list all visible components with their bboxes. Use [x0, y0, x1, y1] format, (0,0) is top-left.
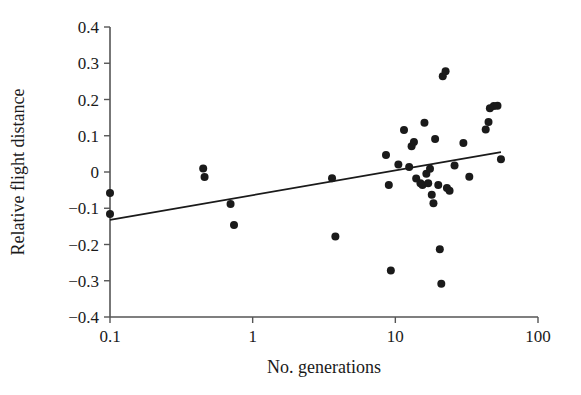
x-tick-label: 10 — [387, 327, 404, 346]
data-point — [201, 173, 209, 181]
data-point — [106, 210, 114, 218]
data-point — [493, 102, 501, 110]
data-point — [394, 160, 402, 168]
data-point — [424, 179, 432, 187]
data-point — [465, 173, 473, 181]
data-point — [459, 139, 467, 147]
data-point — [436, 245, 444, 253]
data-point — [106, 189, 114, 197]
y-tick-label: −0.4 — [68, 308, 99, 327]
data-point — [385, 181, 393, 189]
data-point — [426, 165, 434, 173]
y-tick-label: −0.2 — [68, 236, 99, 255]
data-point — [446, 187, 454, 195]
data-point — [405, 163, 413, 171]
x-axis-title: No. generations — [267, 357, 381, 377]
scatter-plot-canvas: −0.4−0.3−0.2−0.100.10.20.30.4 0.1110100 … — [0, 0, 581, 395]
data-point — [227, 200, 235, 208]
data-point — [485, 118, 493, 126]
data-point — [429, 199, 437, 207]
y-tick-label: −0.1 — [68, 199, 99, 218]
figure-scatter-flight-distance: −0.4−0.3−0.2−0.100.10.20.30.4 0.1110100 … — [0, 0, 581, 395]
data-point — [382, 151, 390, 159]
data-point — [451, 161, 459, 169]
y-tick-label: −0.3 — [68, 272, 99, 291]
x-tick-label: 0.1 — [99, 327, 120, 346]
y-tick-label: 0 — [91, 163, 100, 182]
y-tick-label: 0.4 — [78, 18, 100, 37]
data-point — [428, 191, 436, 199]
x-tick-label: 100 — [525, 327, 551, 346]
data-point — [497, 155, 505, 163]
data-point — [410, 138, 418, 146]
data-point — [437, 280, 445, 288]
data-point — [400, 126, 408, 134]
y-tick-label: 0.2 — [78, 91, 99, 110]
data-point — [420, 119, 428, 127]
data-point — [482, 126, 490, 134]
data-point — [387, 267, 395, 275]
data-point — [442, 67, 450, 75]
y-tick-label: 0.3 — [78, 54, 99, 73]
data-point — [230, 221, 238, 229]
data-point — [434, 181, 442, 189]
x-tick-label: 1 — [248, 327, 257, 346]
data-point — [431, 135, 439, 143]
data-point — [328, 174, 336, 182]
y-axis-title: Relative flight distance — [8, 89, 28, 256]
data-point — [199, 164, 207, 172]
y-tick-label: 0.1 — [78, 127, 99, 146]
data-point — [331, 233, 339, 241]
